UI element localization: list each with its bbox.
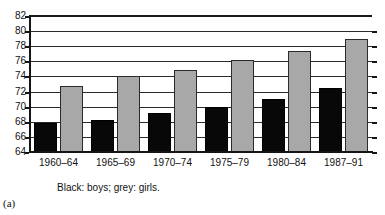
bar-boys-1965-69 (91, 120, 114, 152)
right-tick-mark-72 (372, 92, 377, 94)
y-tick-label-70: 70 (0, 102, 26, 112)
gridline-82 (30, 15, 372, 17)
y-tick-label-76: 76 (0, 56, 26, 66)
right-tick-mark-78 (372, 46, 377, 48)
right-tick-mark-74 (372, 76, 377, 78)
panel-label: (a) (3, 197, 15, 209)
bar-girls-1965-69 (117, 76, 140, 152)
x-axis-line (29, 151, 373, 153)
bar-girls-1987-91 (345, 39, 368, 152)
right-tick-mark-68 (372, 122, 377, 124)
bar-boys-1987-91 (319, 88, 342, 152)
y-tick-label-66: 66 (0, 132, 26, 142)
figure-panel-a: 64666870727476788082 1960–641965–691970–… (0, 0, 385, 215)
y-tick-label-78: 78 (0, 41, 26, 51)
gridline-78 (30, 46, 372, 47)
y-tick-label-68: 68 (0, 117, 26, 127)
y-tick-label-72: 72 (0, 87, 26, 97)
bar-girls-1975-79 (231, 60, 254, 152)
x-tick-label-1970-74: 1970–74 (144, 157, 201, 168)
right-tick-mark-64 (372, 152, 377, 154)
legend-note: Black: boys; grey: girls. (57, 182, 160, 193)
x-tick-label-1980-84: 1980–84 (258, 157, 315, 168)
y-tick-label-64: 64 (0, 147, 26, 157)
right-tick-mark-80 (372, 31, 377, 33)
plot-area (30, 16, 372, 152)
x-tick-label-1960-64: 1960–64 (30, 157, 87, 168)
bar-boys-1970-74 (148, 113, 171, 152)
bar-boys-1980-84 (262, 99, 285, 152)
bar-girls-1970-74 (174, 70, 197, 152)
right-tick-mark-70 (372, 107, 377, 109)
x-tick-label-1965-69: 1965–69 (87, 157, 144, 168)
y-tick-label-74: 74 (0, 71, 26, 81)
y-tick-label-82: 82 (0, 11, 26, 21)
gridline-74 (30, 76, 372, 77)
right-tick-mark-66 (372, 137, 377, 139)
y-axis-line (29, 15, 31, 153)
bar-girls-1960-64 (60, 86, 83, 152)
y-tick-label-80: 80 (0, 26, 26, 36)
bar-boys-1960-64 (34, 123, 57, 152)
gridline-80 (30, 31, 372, 32)
bar-boys-1975-79 (205, 107, 228, 152)
right-tick-mark-76 (372, 61, 377, 63)
x-tick-label-1975-79: 1975–79 (201, 157, 258, 168)
x-tick-label-1987-91: 1987–91 (315, 157, 372, 168)
bar-girls-1980-84 (288, 51, 311, 152)
gridline-76 (30, 61, 372, 62)
